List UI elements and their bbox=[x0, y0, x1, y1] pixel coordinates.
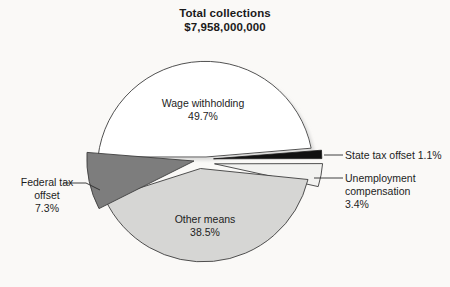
chart-canvas: Total collections $7,958,000,000 bbox=[0, 0, 450, 287]
pie-chart-graphic bbox=[0, 0, 450, 287]
slice-label-other-means: Other means 38.5% bbox=[140, 213, 270, 239]
slice-label-unemployment-compensation: Unemployment compensation 3.4% bbox=[345, 172, 449, 211]
slice-label-federal-tax-offset: Federal tax offset 7.3% bbox=[4, 176, 90, 215]
slice-label-wage-withholding: Wage withholding 49.7% bbox=[118, 97, 288, 123]
slice-label-state-tax-offset: State tax offset 1.1% bbox=[345, 149, 450, 162]
